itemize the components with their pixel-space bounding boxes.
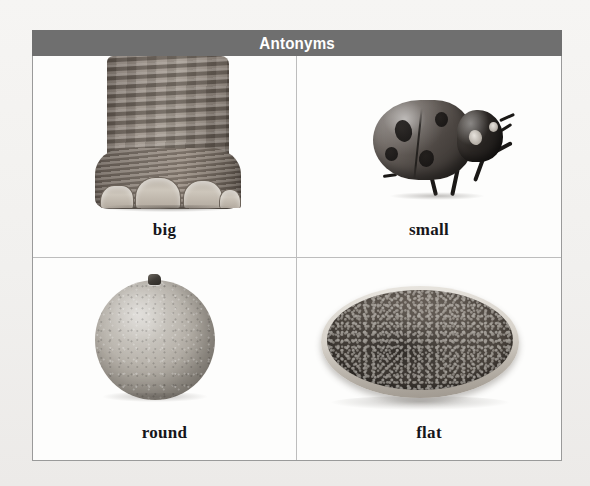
orange-body [95, 280, 215, 400]
caption-small: small [297, 207, 561, 257]
orange-stem [148, 274, 161, 285]
elephant-foot-figure [33, 56, 296, 207]
cell-small: small [297, 56, 561, 258]
elephant-leg-shape [107, 56, 229, 160]
ladybug-figure [297, 56, 561, 207]
ladybug-spot [393, 118, 414, 143]
flat-disc-figure [297, 258, 561, 410]
orange-peel-texture [95, 280, 215, 400]
worksheet-title-bar: Antonyms [32, 30, 562, 56]
ladybug-spot [435, 112, 448, 127]
worksheet-page: Antonyms big [0, 0, 590, 486]
elephant-toenail [183, 180, 223, 208]
elephant-foot-photo [95, 56, 241, 209]
flat-disc-surface [327, 290, 513, 390]
ladybug-photo [373, 94, 505, 196]
ladybug-antenna [499, 113, 515, 122]
ladybug-spot [418, 149, 436, 168]
flat-disc-speckle-texture [327, 290, 513, 390]
caption-round: round [33, 410, 296, 460]
orange-figure [33, 258, 296, 410]
orange-fruit-photo [89, 272, 223, 400]
cell-round: round [33, 258, 297, 460]
caption-flat: flat [297, 410, 561, 460]
ladybug-spot [385, 147, 398, 161]
elephant-ground-shadow [101, 205, 235, 212]
orange-ground-shadow [103, 393, 207, 402]
elephant-toenail [135, 177, 181, 208]
cell-big: big [33, 56, 297, 258]
ladybug-ground-shadow [389, 192, 485, 200]
antonyms-worksheet: Antonyms big [32, 30, 562, 461]
elephant-foot-shape [95, 148, 241, 209]
antonyms-grid: big [32, 56, 562, 461]
ladybug-head-marking [489, 122, 498, 132]
page-title: Antonyms [259, 34, 335, 53]
flat-disc-ground-shadow [331, 396, 509, 410]
cell-flat: flat [297, 258, 561, 460]
flat-pancake-photo [321, 286, 521, 404]
caption-big: big [33, 207, 296, 257]
ladybug-wing-seam [413, 108, 423, 180]
